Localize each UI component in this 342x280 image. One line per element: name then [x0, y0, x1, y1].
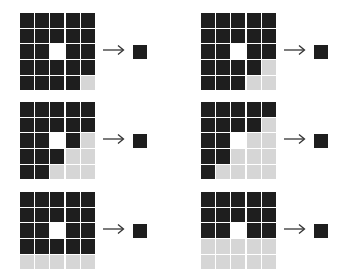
pixel [247, 76, 261, 91]
pixel [201, 149, 215, 164]
pixel [35, 60, 49, 75]
pixel [81, 118, 95, 133]
arrow-right-icon [284, 223, 306, 235]
pixel [262, 44, 276, 59]
pixel [50, 208, 64, 223]
pixel [66, 133, 80, 148]
pixel [247, 255, 261, 270]
pixel [66, 223, 80, 238]
pixel [201, 223, 215, 238]
pixel [20, 149, 34, 164]
panel-bottom-right [201, 192, 342, 272]
pixel [35, 76, 49, 91]
pixel [247, 223, 261, 238]
center-pixel [231, 133, 245, 148]
pixel [35, 102, 49, 117]
pixel [231, 118, 245, 133]
pixel [81, 29, 95, 44]
pixel [35, 118, 49, 133]
pixel [247, 60, 261, 75]
pixel [231, 192, 245, 207]
center-pixel [231, 44, 245, 59]
pixel [231, 208, 245, 223]
pixel [216, 76, 230, 91]
pixel [20, 76, 34, 91]
output-pixel [133, 224, 147, 238]
pixel [247, 118, 261, 133]
pixel [66, 165, 80, 180]
center-pixel [50, 223, 64, 238]
panel-bottom-left [20, 192, 170, 272]
pixel [216, 255, 230, 270]
arrow-right-icon [103, 44, 125, 56]
pixel [50, 192, 64, 207]
pixel [50, 239, 64, 254]
pixel [20, 223, 34, 238]
pixel [216, 223, 230, 238]
pixel [216, 13, 230, 28]
pixel [35, 165, 49, 180]
pixel [20, 60, 34, 75]
pixel [201, 76, 215, 91]
pixel [231, 60, 245, 75]
pixel [81, 149, 95, 164]
pixel [216, 60, 230, 75]
output-pixel [133, 45, 147, 59]
output-pixel [314, 224, 328, 238]
pixel [247, 13, 261, 28]
pixel [66, 44, 80, 59]
pixel [247, 239, 261, 254]
pixel-grid [20, 13, 95, 90]
pixel [201, 239, 215, 254]
output-pixel [314, 45, 328, 59]
pixel [262, 60, 276, 75]
pixel [262, 192, 276, 207]
pixel [81, 165, 95, 180]
pixel [81, 239, 95, 254]
pixel [35, 255, 49, 270]
pixel [201, 208, 215, 223]
pixel [50, 13, 64, 28]
pixel [20, 102, 34, 117]
pixel [35, 223, 49, 238]
pixel [216, 29, 230, 44]
pixel [216, 208, 230, 223]
pixel [216, 44, 230, 59]
pixel [231, 13, 245, 28]
pixel [216, 192, 230, 207]
pixel [50, 149, 64, 164]
pixel [35, 192, 49, 207]
pixel [201, 60, 215, 75]
pixel [262, 102, 276, 117]
pixel [20, 13, 34, 28]
pixel [231, 76, 245, 91]
pixel [247, 29, 261, 44]
pixel [20, 133, 34, 148]
pixel-grid [20, 102, 95, 179]
pixel [50, 76, 64, 91]
pixel [81, 44, 95, 59]
pixel [20, 192, 34, 207]
pixel [262, 29, 276, 44]
pixel [81, 76, 95, 91]
pixel [35, 29, 49, 44]
pixel [35, 44, 49, 59]
pixel [262, 13, 276, 28]
pixel [66, 208, 80, 223]
pixel [50, 255, 64, 270]
pixel [247, 149, 261, 164]
pixel-grid [201, 102, 276, 179]
pixel [66, 192, 80, 207]
pixel [201, 29, 215, 44]
pixel [20, 208, 34, 223]
pixel [231, 149, 245, 164]
center-pixel [231, 223, 245, 238]
pixel [262, 208, 276, 223]
pixel [262, 149, 276, 164]
pixel [66, 102, 80, 117]
pixel [66, 29, 80, 44]
panel-top-left [20, 13, 170, 93]
pixel [262, 165, 276, 180]
pixel [262, 76, 276, 91]
pixel [35, 149, 49, 164]
